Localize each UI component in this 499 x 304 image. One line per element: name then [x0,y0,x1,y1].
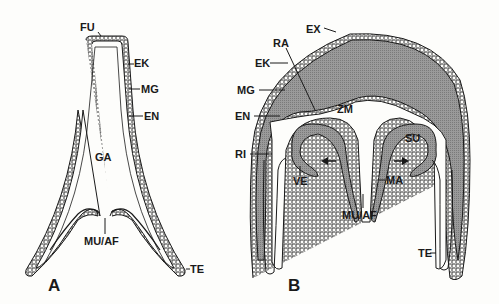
label-en-b: EN [235,111,250,122]
label-en-a: EN [144,111,159,122]
label-ex: EX [306,24,321,35]
label-ve: VE [293,176,308,187]
label-mu-af-b: MU/AF [342,210,377,221]
panel-label-b: B [288,277,300,294]
label-fu: FU [80,22,95,33]
label-mg-a: MG [141,84,159,95]
diagram-figure: FU EK MG EN GA MU/AF TE A EX RA EK MG EN… [0,0,499,304]
label-ma: MA [386,175,403,186]
label-te-a: TE [190,264,204,275]
label-su: SU [405,133,420,144]
label-te-b: TE [418,248,432,259]
label-mu-af-a: MU/AF [84,236,119,247]
label-mg-b: MG [237,85,255,96]
label-zm: ZM [337,104,353,115]
panel-label-a: A [48,277,60,294]
label-ga: GA [95,152,112,163]
panel-b-drawing [250,28,470,280]
label-ra: RA [273,38,289,49]
label-ri: RI [235,149,246,160]
label-ek-a: EK [134,58,149,69]
label-ek-b: EK [255,58,270,69]
